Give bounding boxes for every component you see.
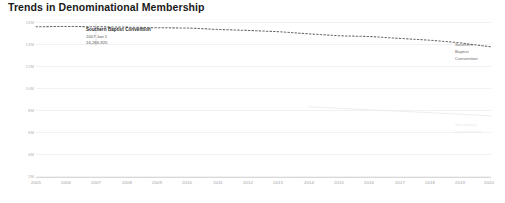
series-line-secondary[interactable] [309, 107, 491, 116]
series-end-label-secondary: Secondary Denomination [455, 122, 483, 136]
series-end-label-line: Secondary [455, 122, 483, 129]
series-end-label-southern-baptist-convention: Southern Baptist Convention [455, 42, 478, 62]
series-end-label-line: Baptist [455, 49, 478, 56]
annotation-tooltip: Southern Baptist Convention 2007 Jan 1 1… [86, 27, 151, 46]
series-end-label-line: Convention [455, 56, 478, 63]
series-end-label-line: Southern [455, 42, 478, 49]
series-end-label-line: Denomination [455, 129, 483, 136]
annotation-value: 16,266,920 [86, 40, 151, 46]
annotation-series-name: Southern Baptist Convention [86, 27, 151, 34]
chart-container: Trends in Denominational Membership 16M … [0, 0, 505, 203]
series-layer [0, 0, 505, 203]
